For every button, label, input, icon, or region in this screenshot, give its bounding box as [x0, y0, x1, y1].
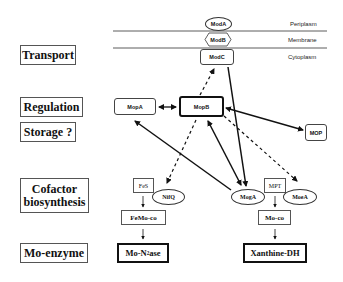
- node-moga: MogA: [231, 189, 265, 205]
- category-mo-enzyme: Mo-enzyme: [20, 243, 88, 263]
- category-cofactor-line1: Cofactor: [32, 183, 77, 196]
- node-mopb: MopB: [179, 96, 224, 117]
- compartment-membrane: Membrane: [288, 37, 317, 43]
- node-mo-n2ase: Mo-N2ase: [117, 243, 169, 263]
- node-moda: ModA: [205, 17, 232, 31]
- node-moea: MoeA: [283, 189, 317, 205]
- node-modb: ModB: [205, 33, 231, 46]
- mo-n2ase-suffix: ase: [149, 248, 160, 258]
- node-mpt: MPT: [264, 178, 286, 193]
- node-femoco: FeMo-co: [121, 210, 166, 225]
- node-modc: ModC: [200, 49, 234, 65]
- node-fes: FeS: [133, 178, 154, 193]
- edge-mopb-moga: [208, 121, 241, 185]
- node-xanthine-dh: Xanthine-DH: [243, 243, 307, 263]
- edge-modc-moga: [228, 67, 246, 186]
- mo-metabolism-diagram: Transport Regulation Storage ? Cofactor …: [0, 0, 343, 282]
- node-mop: MOP: [305, 124, 327, 141]
- node-nifq: NifQ: [152, 189, 185, 205]
- category-storage: Storage ?: [20, 122, 76, 142]
- category-cofactor-biosynthesis: Cofactor biosynthesis: [20, 178, 89, 213]
- mo-n2ase-prefix: Mo-N: [125, 248, 146, 258]
- edge-mopb-modc: [200, 69, 214, 95]
- compartment-periplasm: Periplasm: [290, 21, 317, 27]
- node-moco: Mo-co: [258, 210, 291, 225]
- edge-mopb-nifq: [167, 120, 196, 183]
- category-transport: Transport: [20, 45, 76, 65]
- compartment-cytoplasm: Cytoplasm: [288, 54, 316, 60]
- node-mopa: MopA: [114, 98, 156, 115]
- category-cofactor-line2: biosynthesis: [23, 196, 85, 209]
- category-regulation: Regulation: [20, 97, 83, 117]
